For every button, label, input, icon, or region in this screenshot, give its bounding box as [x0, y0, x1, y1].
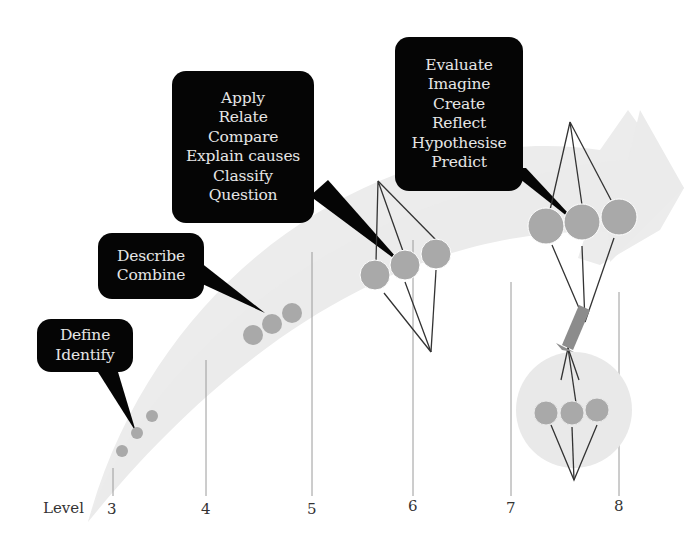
level-label-4: 4 — [201, 500, 211, 518]
node — [146, 410, 158, 422]
node — [282, 303, 302, 323]
node — [528, 208, 564, 244]
bubble-text-line: Reflect — [395, 114, 523, 134]
node — [131, 427, 143, 439]
bubble-text-line: Relate — [172, 108, 314, 128]
bubble-text-line: Explain causes — [172, 147, 314, 167]
level-label-7: 7 — [506, 499, 516, 517]
node — [390, 250, 420, 280]
progression-diagram: Define Identify Describe Combine Apply R… — [0, 0, 686, 554]
transfer-arrow — [556, 305, 590, 352]
bubble-text-line: Question — [172, 186, 314, 206]
bubble-text-line: Compare — [172, 128, 314, 148]
bubble-apply-question: Apply Relate Compare Explain causes Clas… — [172, 71, 314, 223]
bubble-text-line: Describe — [98, 247, 204, 267]
node — [262, 314, 282, 334]
node — [560, 401, 584, 425]
node — [116, 445, 128, 457]
level8-lower-nodes — [534, 398, 609, 425]
level-label-6: 6 — [408, 497, 418, 515]
level-label-3: 3 — [107, 500, 117, 518]
node — [421, 239, 451, 269]
level-label-5: 5 — [307, 500, 317, 518]
bubble-text-line: Predict — [395, 153, 523, 173]
bubble-text-line: Apply — [172, 89, 314, 109]
bubble-describe-combine: Describe Combine — [98, 233, 204, 299]
node — [585, 398, 609, 422]
bubble-text-line: Hypothesise — [395, 134, 523, 154]
tail-define — [98, 372, 136, 432]
bubble-text-line: Combine — [98, 266, 204, 286]
node — [534, 401, 558, 425]
bubble-text-line: Create — [395, 95, 523, 115]
bubble-text-line: Define — [37, 326, 133, 346]
bubble-text-line: Imagine — [395, 75, 523, 95]
node — [360, 260, 390, 290]
bubble-text-line: Evaluate — [395, 56, 523, 76]
bubble-define-identify: Define Identify — [37, 319, 133, 372]
node — [243, 325, 263, 345]
bubble-evaluate-predict: Evaluate Imagine Create Reflect Hypothes… — [395, 37, 523, 191]
bubble-text-line: Classify — [172, 167, 314, 187]
node — [564, 204, 600, 240]
axis-label-level: Level — [43, 499, 84, 517]
node — [601, 199, 637, 235]
bubble-text-line: Identify — [37, 346, 133, 366]
level-label-8: 8 — [614, 497, 624, 515]
